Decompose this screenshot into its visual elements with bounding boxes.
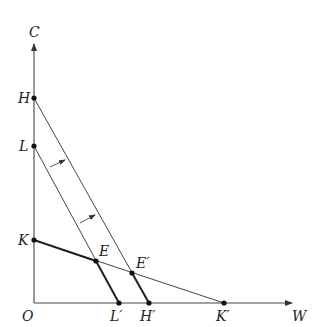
label-K: K bbox=[17, 232, 30, 248]
shift-arrow-upper bbox=[50, 160, 65, 167]
point-K bbox=[31, 237, 36, 242]
point-Lprime bbox=[116, 300, 121, 305]
label-Kprime: K′ bbox=[215, 308, 230, 324]
point-H bbox=[31, 95, 36, 100]
shift-arrow-lower bbox=[80, 215, 95, 223]
point-L bbox=[31, 143, 36, 148]
label-W: W bbox=[292, 308, 308, 324]
label-Eprime: E′ bbox=[135, 255, 150, 271]
label-Lprime: L′ bbox=[109, 308, 123, 324]
label-C: C bbox=[29, 24, 40, 40]
budget-diagram: C W O H L K E E′ L′ H′ K′ bbox=[0, 0, 317, 327]
label-Hprime: H′ bbox=[139, 308, 156, 324]
label-L: L bbox=[18, 138, 28, 154]
label-H: H bbox=[17, 90, 31, 106]
label-E: E bbox=[98, 243, 109, 259]
point-E bbox=[93, 258, 98, 263]
point-Hprime bbox=[146, 300, 151, 305]
label-O: O bbox=[22, 308, 34, 324]
point-Eprime bbox=[129, 270, 134, 275]
point-Kprime bbox=[221, 300, 226, 305]
